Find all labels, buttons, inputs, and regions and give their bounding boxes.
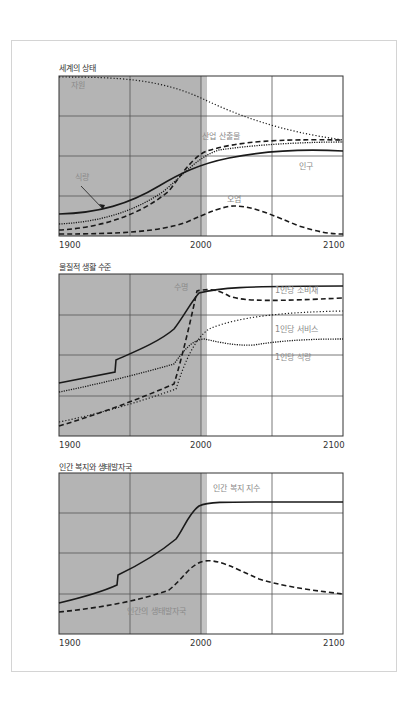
x-tick-2100: 2100 [323,638,345,648]
label-life-expectancy: 수명 [174,282,188,292]
label-human-welfare-index: 인간 복지 지수 [213,483,260,493]
x-tick-2000: 2000 [190,638,212,648]
label-pollution: 오염 [227,195,241,204]
x-tick-1900: 1900 [59,440,81,450]
label-resources: 자원 [71,81,85,90]
panel-title-welfare-footprint: 인간 복지와 생태발자국 [59,461,132,472]
chart-welfare-footprint: 인간 복지 지수 인간의 생태발자국 [59,473,343,635]
panel-title-world-state: 세계의 상태 [59,62,95,73]
x-tick-2100: 2100 [323,440,345,450]
x-tick-1900: 1900 [59,638,81,648]
label-goods-per-capita: 1인당 소비재 [275,285,318,295]
x-tick-2000: 2000 [190,440,212,450]
x-tick-2000: 2000 [190,240,212,250]
label-industry: 산업 산출물 [202,131,240,141]
label-population: 인구 [299,161,313,171]
x-tick-2100: 2100 [323,240,345,250]
label-food-per-capita: 1인당 식량 [275,352,312,362]
x-tick-1900: 1900 [59,240,81,250]
label-ecological-footprint: 인간의 생태발자국 [127,606,186,616]
label-services-per-capita: 1인당 서비스 [275,324,318,334]
chart-living-standard: 수명 1인당 소비재 1인당 서비스 1인당 식량 [59,274,343,437]
panel-title-living-standard: 물질적 생활 수준 [59,261,111,272]
chart-world-state: 자원 산업 산출물 인구 식량 오염 [59,76,343,237]
label-food: 식량 [75,172,90,182]
